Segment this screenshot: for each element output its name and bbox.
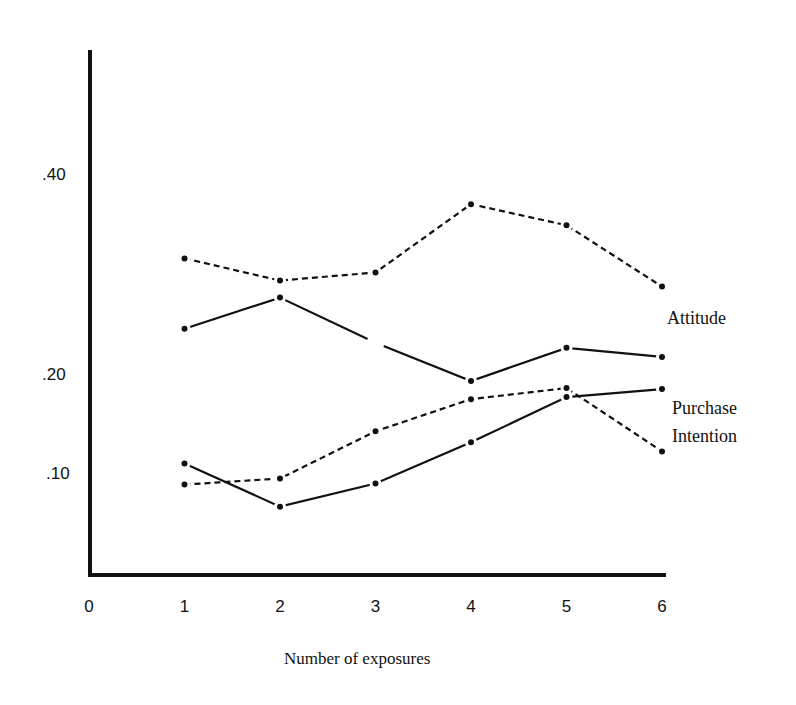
purchase-intention-label-line2: Intention [672, 426, 737, 446]
data-point-marker [182, 460, 188, 466]
y-tick-label: .10 [46, 464, 70, 483]
data-point-marker [373, 269, 379, 275]
data-point-marker [564, 394, 570, 400]
x-tick-label: 5 [562, 597, 571, 616]
y-tick-label: .40 [42, 165, 66, 184]
line-chart: .40 .20 .10 0123456 Attitude Purchase In… [0, 0, 796, 705]
series-line [185, 389, 663, 507]
data-point-marker [564, 222, 570, 228]
x-tick-label: 0 [84, 597, 93, 616]
purchase-intention-label-line1: Purchase [672, 398, 737, 418]
data-point-marker [182, 482, 188, 488]
data-point-marker [182, 326, 188, 332]
x-tick-label: 6 [657, 597, 666, 616]
data-point-marker [659, 284, 665, 290]
data-point-marker [373, 481, 379, 487]
data-point-marker [659, 386, 665, 392]
line-gap [367, 334, 385, 352]
data-point-marker [468, 378, 474, 384]
data-point-marker [468, 396, 474, 402]
attitude-label: Attitude [667, 308, 726, 328]
data-point-marker [277, 504, 283, 510]
x-axis-title: Number of exposures [284, 649, 430, 668]
series-line [185, 298, 663, 381]
data-point-marker [659, 354, 665, 360]
data-point-marker [277, 476, 283, 482]
x-tick-label: 3 [371, 597, 380, 616]
data-point-marker [277, 278, 283, 284]
data-point-marker [277, 295, 283, 301]
x-tick-labels: 0123456 [84, 597, 666, 616]
series-group [179, 198, 669, 513]
y-tick-label: .20 [42, 365, 66, 384]
data-point-marker [659, 448, 665, 454]
series-line [185, 204, 663, 286]
data-point-marker [468, 201, 474, 207]
series-line [185, 388, 663, 484]
x-tick-label: 1 [180, 597, 189, 616]
x-tick-label: 2 [275, 597, 284, 616]
data-point-marker [373, 428, 379, 434]
data-point-marker [564, 345, 570, 351]
data-point-marker [182, 255, 188, 261]
data-point-marker [468, 439, 474, 445]
x-tick-label: 4 [466, 597, 475, 616]
data-point-marker [564, 385, 570, 391]
